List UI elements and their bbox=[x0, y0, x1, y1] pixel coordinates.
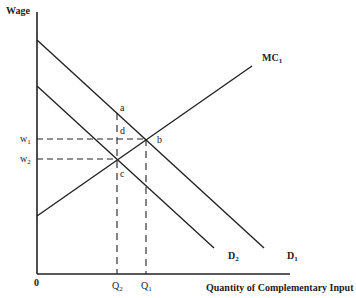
point-a-label: a bbox=[120, 102, 124, 113]
d2-label: D2 bbox=[228, 250, 239, 263]
point-d-label: d bbox=[120, 125, 125, 136]
y-axis-label: Wage bbox=[6, 5, 30, 16]
w2-label: w2 bbox=[20, 153, 31, 166]
point-c-label: c bbox=[120, 168, 124, 179]
q1-label: Q1 bbox=[141, 280, 152, 293]
d1-label: D1 bbox=[287, 250, 298, 263]
x-axis-label: Quantity of Complementary Input bbox=[206, 282, 354, 293]
diagram-canvas bbox=[0, 0, 356, 298]
demand-curve-d1 bbox=[37, 40, 264, 248]
w1-label: w1 bbox=[20, 133, 31, 146]
mc1-label: MC1 bbox=[262, 52, 282, 65]
q2-label: Q2 bbox=[112, 280, 123, 293]
origin-label: 0 bbox=[34, 277, 39, 288]
marginal-cost-curve-mc1 bbox=[37, 66, 252, 216]
point-b-label: b bbox=[157, 134, 162, 145]
